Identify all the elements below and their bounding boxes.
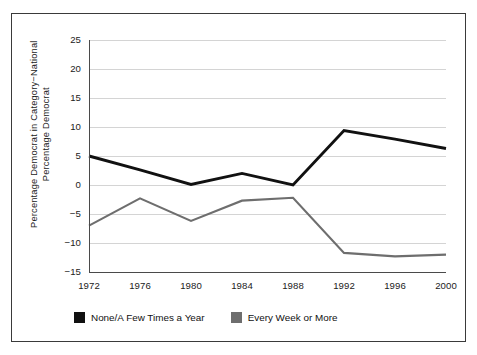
data-lines — [12, 14, 467, 343]
chart-figure: Percentage Democrat in Category−National… — [11, 13, 466, 342]
series-line — [89, 130, 446, 185]
legend-item: None/A Few Times a Year — [74, 312, 205, 323]
legend-swatch-icon — [231, 312, 242, 323]
chart-legend: None/A Few Times a YearEvery Week or Mor… — [74, 312, 356, 323]
legend-label: None/A Few Times a Year — [91, 312, 205, 323]
x-axis-spine — [89, 272, 446, 273]
series-line — [89, 198, 446, 257]
legend-item: Every Week or More — [231, 312, 338, 323]
legend-swatch-icon — [74, 312, 85, 323]
legend-label: Every Week or More — [248, 312, 338, 323]
plot-area: Percentage Democrat in Category−National… — [12, 14, 467, 343]
y-axis-spine — [89, 40, 90, 272]
